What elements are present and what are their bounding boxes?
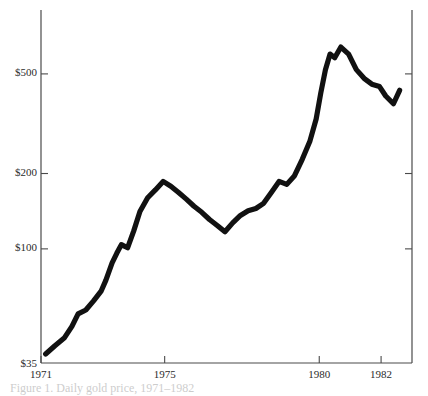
y-tick-label: $500	[15, 66, 38, 78]
x-tick-label-group: 1971197519801982	[30, 368, 392, 380]
x-tick-label: 1971	[30, 368, 52, 380]
x-tick-label: 1975	[154, 368, 177, 380]
y-tick-group	[41, 74, 412, 249]
x-tick-group	[41, 356, 381, 363]
x-tick-label: 1980	[308, 368, 331, 380]
y-tick-label: $200	[15, 166, 38, 178]
y-tick-label-group: $500$200$100$35	[15, 66, 38, 368]
figure-caption: Figure 1. Daily gold price, 1971–1982	[10, 381, 194, 396]
y-tick-label: $100	[15, 241, 38, 253]
x-tick-label: 1982	[370, 368, 392, 380]
y-tick-label: $35	[21, 357, 38, 369]
price-line	[46, 47, 400, 354]
